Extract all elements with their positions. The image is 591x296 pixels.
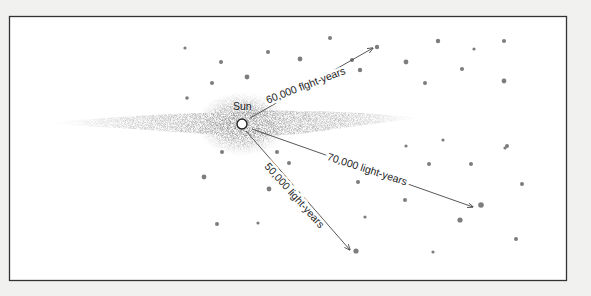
cluster-dot xyxy=(267,187,272,192)
cluster-dot xyxy=(363,215,366,218)
cluster-dot xyxy=(460,67,464,71)
cluster-dot xyxy=(503,146,506,149)
cluster-dot xyxy=(441,138,444,141)
cluster-dot xyxy=(502,39,506,43)
cluster-dot xyxy=(219,60,223,64)
cluster-dot xyxy=(266,50,270,54)
cluster-dot xyxy=(298,57,303,62)
cluster-dot xyxy=(436,39,440,43)
cluster-dot xyxy=(469,162,473,166)
cluster-dot xyxy=(287,161,291,165)
cluster-dot xyxy=(502,79,507,84)
cluster-dot xyxy=(202,175,207,180)
cluster-dot xyxy=(478,202,484,208)
cluster-dot xyxy=(472,47,475,50)
cluster-dot xyxy=(520,182,524,186)
cluster-dot xyxy=(403,198,407,202)
milky-way-diagram: 60,000 flght-years70,000 light-years50,0… xyxy=(0,0,591,296)
cluster-dot xyxy=(514,237,518,241)
diagram-frame xyxy=(10,17,567,281)
cluster-dot xyxy=(375,45,379,49)
cluster-dot xyxy=(220,150,224,154)
sun-label: Sun xyxy=(233,100,252,112)
cluster-dot xyxy=(457,217,462,222)
cluster-dot xyxy=(328,36,332,40)
cluster-dot xyxy=(210,81,214,85)
cluster-dot xyxy=(256,221,259,224)
cluster-dot xyxy=(423,81,427,85)
cluster-dot xyxy=(183,46,186,49)
cluster-dot xyxy=(215,222,219,226)
cluster-dot xyxy=(245,75,250,80)
cluster-dot xyxy=(353,248,358,253)
cluster-dot xyxy=(358,68,362,72)
sun-icon xyxy=(237,119,247,129)
cluster-dot xyxy=(404,144,407,147)
cluster-dot xyxy=(275,150,279,154)
cluster-dot xyxy=(427,162,431,166)
cluster-dot xyxy=(431,250,434,253)
cluster-dot xyxy=(404,60,409,65)
cluster-dot xyxy=(185,96,189,100)
cluster-dot xyxy=(356,180,360,184)
